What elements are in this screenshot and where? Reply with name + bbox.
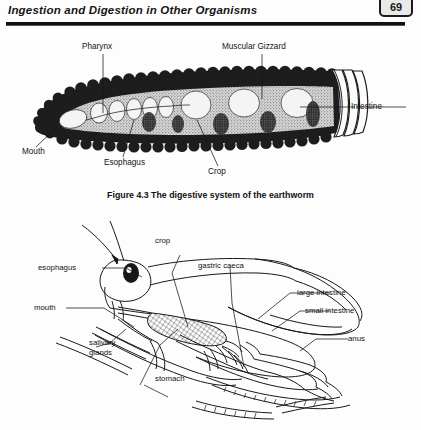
label-small-intestine: small intestine xyxy=(305,306,354,315)
grasshopper-diagram xyxy=(0,215,421,430)
label-pharynx: Pharynx xyxy=(82,42,112,52)
label-crop-insect: crop xyxy=(155,236,170,245)
label-stomach: stomach xyxy=(155,374,184,383)
label-salivary-glands-line2: glands xyxy=(89,348,112,357)
label-mouth-insect: mouth xyxy=(34,303,56,312)
label-crop-worm: Crop xyxy=(208,167,226,177)
label-esophagus-worm: Esophagus xyxy=(104,158,145,168)
label-intestine: Intestine xyxy=(351,102,382,112)
label-muscular-gizzard: Muscular Gizzard xyxy=(222,42,286,52)
label-salivary-glands-line1: salivary xyxy=(89,338,115,347)
label-mouth-worm: Mouth xyxy=(22,147,45,157)
figure-caption: Figure 4.3 The digestive system of the e… xyxy=(0,190,421,200)
page-root: Ingestion and Digestion in Other Organis… xyxy=(0,0,421,430)
earthworm-diagram xyxy=(0,0,421,190)
label-gastric-caeca: gastric caeca xyxy=(198,261,244,270)
label-esophagus-insect: esophagus xyxy=(38,263,76,272)
label-anus: anus xyxy=(348,334,365,343)
label-large-intestine: large intestine xyxy=(297,288,346,297)
